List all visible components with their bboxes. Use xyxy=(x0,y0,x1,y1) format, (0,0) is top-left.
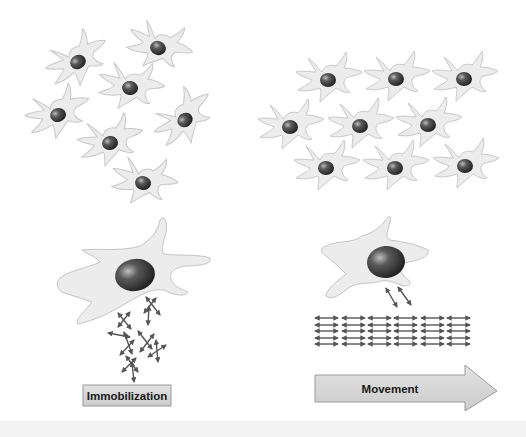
right-large-cell xyxy=(322,217,429,298)
cell xyxy=(37,22,118,95)
cell xyxy=(294,140,360,190)
movement-arrow: Movement xyxy=(315,365,497,411)
cell xyxy=(20,79,97,144)
cell-migration-diagram: Immobilization xyxy=(0,0,526,437)
cell xyxy=(95,55,169,116)
cell xyxy=(432,51,498,101)
cell xyxy=(120,11,199,81)
cell xyxy=(74,111,146,170)
random-fibers xyxy=(108,297,166,382)
bottom-band xyxy=(0,421,526,437)
left-random-cells xyxy=(20,11,226,212)
cell xyxy=(143,78,226,157)
cell xyxy=(433,138,499,188)
aligned-fibers xyxy=(315,318,470,344)
cell xyxy=(328,98,394,148)
adhesion-arrows xyxy=(386,287,411,307)
cell xyxy=(296,52,362,102)
cell xyxy=(396,97,462,147)
movement-text: Movement xyxy=(362,383,419,395)
cell xyxy=(107,149,182,212)
right-aligned-cells xyxy=(258,51,499,190)
immobilization-label: Immobilization xyxy=(83,385,171,406)
left-large-cell xyxy=(57,218,210,324)
cell xyxy=(258,99,324,149)
cell xyxy=(363,140,429,190)
immobilization-text: Immobilization xyxy=(87,390,168,402)
cell xyxy=(364,51,430,101)
